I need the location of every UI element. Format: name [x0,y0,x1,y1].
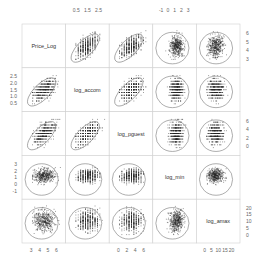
bottom-axis-ticks: 3456 [30,247,58,253]
tick-label: 4 [246,47,249,53]
scatter-panel [196,112,240,156]
top-axis-ticks: 0.51.52.5 [73,7,103,13]
tick-label: 6 [246,30,249,36]
tick-label: 0 [246,143,249,149]
variable-name: log_accom [74,87,101,93]
tick-label: 3 [246,56,249,62]
scatter-panel [22,112,66,156]
scatter-panel [153,199,197,243]
tick-label: 15 [222,247,228,253]
tick-label: 1.5 [84,7,91,13]
tick-label: 10 [215,247,221,253]
scatter-panel [66,155,110,199]
variable-name: log_amax [206,218,230,224]
left-axis-ticks: -10123 [13,161,18,194]
tick-label: 2 [246,135,249,141]
tick-label: 1 [14,174,17,180]
scatter-panel [109,68,153,112]
tick-label: 4 [134,247,137,253]
scatter-panel [66,112,110,156]
scatter-panel [22,68,66,112]
scatter-panel [153,24,197,68]
tick-label: 6 [142,247,145,253]
tick-label: 10 [246,218,252,224]
tick-label: 3 [14,161,17,167]
tick-label: 0 [14,181,17,187]
left-axis-ticks: 0.51.01.52.02.5 [10,73,17,106]
tick-label: -1 [159,7,164,13]
tick-label: 2.5 [95,7,102,13]
tick-label: 0.5 [10,100,17,106]
scatter-panel [109,199,153,243]
tick-label: 1 [173,7,176,13]
variable-name: log_pguest [118,131,145,137]
scatter-panel [22,199,66,243]
tick-label: 5 [246,39,249,45]
scatter-panel [196,24,240,68]
tick-label: 5 [47,247,50,253]
diagonal-label-panel: log_amax [196,199,240,243]
tick-label: 5 [210,247,213,253]
diagonal-label-panel: log_min [153,155,197,199]
tick-label: 0 [117,247,120,253]
tick-label: 2.0 [10,80,17,86]
tick-label: 1.5 [10,87,17,93]
tick-label: 3 [187,7,190,13]
tick-label: 5 [246,225,249,231]
tick-label: 2.5 [10,73,17,79]
right-axis-ticks: 3456 [246,30,249,61]
scatter-panel [22,155,66,199]
variable-name: Price_Log [31,43,56,49]
tick-label: 6 [55,247,58,253]
scatter-panel [109,24,153,68]
scatter-panel [66,199,110,243]
tick-label: -1 [13,188,18,194]
bottom-axis-ticks: 05101520 [203,247,234,253]
tick-label: 2 [14,168,17,174]
tick-label: 0 [246,232,249,238]
diagonal-label-panel: Price_Log [22,24,66,68]
diagonal-label-panel: log_accom [66,68,110,112]
variable-name: log_min [165,174,184,180]
tick-label: 0.5 [73,7,80,13]
right-axis-ticks: 0246 [246,118,249,149]
tick-label: 4 [246,126,249,132]
bottom-axis-ticks: 0246 [117,247,145,253]
scatter-panel [109,155,153,199]
tick-label: 6 [246,118,249,124]
scatter-panel [153,68,197,112]
tick-label: 20 [229,247,235,253]
scatter-panel [66,24,110,68]
tick-label: 2 [180,7,183,13]
top-axis-ticks: -10123 [159,7,190,13]
tick-label: 3 [30,247,33,253]
right-axis-ticks: 05101520 [246,205,252,238]
diagonal-label-panel: log_pguest [109,112,153,156]
tick-label: 0 [166,7,169,13]
tick-label: 2 [125,247,128,253]
tick-label: 4 [38,247,41,253]
tick-label: 1.0 [10,93,17,99]
scatterplot-matrix: Price_Loglog_accomlog_pguestlog_minlog_a… [0,0,263,272]
tick-label: 20 [246,205,252,211]
tick-label: 15 [246,211,252,217]
tick-label: 0 [203,247,206,253]
scatter-panel [153,112,197,156]
scatter-panel [196,68,240,112]
scatter-panel [196,155,240,199]
